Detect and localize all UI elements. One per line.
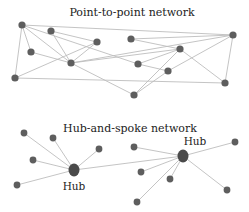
network-edge [15, 78, 225, 83]
spoke-edge [134, 147, 183, 156]
spoke-node [134, 199, 141, 206]
point-to-point-edges [15, 25, 233, 95]
hub-node [69, 164, 80, 177]
spoke-node [138, 169, 145, 176]
network-node [176, 45, 183, 52]
network-edge [71, 63, 134, 95]
network-node [27, 48, 34, 55]
network-edge [15, 42, 97, 78]
network-edge [15, 25, 22, 78]
hub-label: Hub [184, 135, 207, 147]
spoke-node [50, 135, 57, 142]
spoke-node [232, 139, 239, 146]
spoke-node [167, 176, 174, 183]
network-node [134, 60, 141, 67]
spoke-node [21, 130, 28, 137]
network-edge [225, 35, 233, 83]
network-node [67, 59, 74, 66]
hub-node [178, 150, 189, 163]
spoke-node [224, 187, 231, 194]
network-node [130, 91, 137, 98]
network-node [93, 38, 100, 45]
spoke-node [14, 182, 21, 189]
hub-label: Hub [63, 180, 86, 192]
network-edge [134, 49, 180, 95]
hub-labels: HubHub [63, 135, 207, 192]
network-edge [22, 25, 138, 64]
spoke-node [30, 157, 37, 164]
network-edge [22, 25, 71, 63]
hub-and-spoke-title: Hub-and-spoke network [63, 122, 197, 135]
network-node [11, 74, 18, 81]
network-edge [51, 31, 97, 42]
point-to-point-title: Point-to-point network [69, 6, 195, 19]
spoke-edge [183, 156, 227, 190]
network-node [18, 21, 25, 28]
network-edge [131, 39, 180, 49]
network-edge [131, 35, 233, 39]
network-node [164, 67, 171, 74]
spoke-node [96, 146, 103, 153]
network-node [127, 35, 134, 42]
spoke-edge [137, 156, 183, 202]
network-node [47, 27, 54, 34]
network-edge [180, 49, 225, 83]
network-node [221, 79, 228, 86]
network-node [229, 31, 236, 38]
network-edge [71, 49, 180, 63]
spoke-edge [24, 133, 74, 170]
hub-link-edge [74, 156, 183, 170]
network-edge [134, 71, 168, 95]
spoke-node [131, 144, 138, 151]
network-comparison-diagram: Point-to-point network Hub-and-spoke net… [0, 0, 249, 212]
